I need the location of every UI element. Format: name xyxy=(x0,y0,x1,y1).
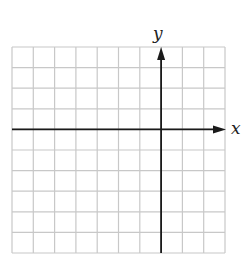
grid-lines xyxy=(12,47,225,253)
y-axis-label: y xyxy=(153,25,163,42)
x-axis-arrowhead-icon xyxy=(213,125,226,133)
coordinate-plane: x y xyxy=(0,0,249,254)
y-axis-arrowhead-icon xyxy=(157,47,165,60)
x-axis-label: x xyxy=(231,120,241,137)
grid xyxy=(0,0,249,254)
